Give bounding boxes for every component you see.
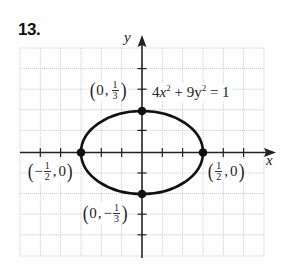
exp-x: 2: [166, 83, 171, 93]
open-paren: (: [83, 202, 89, 224]
y-axis-label: y: [124, 29, 131, 46]
denominator: 2: [215, 172, 222, 182]
label-top-point: ( 0, 13 ): [89, 79, 127, 101]
y-axis: [138, 35, 147, 258]
comma: ,: [224, 164, 228, 179]
numerator: 1: [113, 203, 120, 214]
label-bottom-point: ( 0, − 13 ): [82, 202, 128, 224]
zero: 0: [230, 164, 238, 179]
open-paren: (: [28, 160, 34, 182]
open-paren: (: [90, 79, 96, 101]
denominator: 3: [113, 214, 120, 224]
plus-sign: +: [174, 84, 182, 100]
denominator: 2: [44, 172, 51, 182]
x-axis-label: x: [266, 152, 273, 169]
minus-sign: −: [104, 206, 112, 221]
x-axis: [20, 148, 276, 157]
fraction: 13: [113, 203, 120, 224]
zero: 0: [59, 164, 67, 179]
coordinate-plane: [0, 0, 286, 268]
comma: ,: [105, 83, 109, 98]
denominator: 3: [112, 91, 119, 101]
point-bottom: [138, 190, 147, 199]
close-paren: ): [122, 202, 128, 224]
minus-sign: −: [34, 164, 42, 179]
equation-label: 4x2 + 9y2 = 1: [150, 83, 232, 101]
comma: ,: [98, 206, 102, 221]
label-right-point: ( 12 ,0 ): [207, 160, 245, 182]
close-paren: ): [67, 160, 73, 182]
coef-x: 4: [152, 84, 160, 100]
fraction: 12: [215, 161, 222, 182]
comma: ,: [53, 164, 57, 179]
label-left-point: ( − 12 ,0 ): [27, 160, 73, 182]
numerator: 1: [215, 161, 222, 172]
numerator: 1: [112, 80, 119, 91]
zero: 0: [96, 83, 104, 98]
equals-one: = 1: [210, 84, 230, 100]
point-right: [199, 148, 208, 157]
zero: 0: [89, 206, 97, 221]
ellipse-figure: 13. y x 4x2 + 9y2 = 1 ( 0, 13 ) ( 0, − 1…: [0, 0, 286, 268]
open-paren: (: [208, 160, 214, 182]
fraction: 12: [44, 161, 51, 182]
close-paren: ): [120, 79, 126, 101]
point-left: [77, 148, 86, 157]
var-y: y: [194, 84, 202, 100]
point-top: [138, 107, 147, 116]
close-paren: ): [238, 160, 244, 182]
problem-number: 13.: [18, 20, 40, 40]
fraction: 13: [112, 80, 119, 101]
exp-y: 2: [202, 83, 207, 93]
numerator: 1: [44, 161, 51, 172]
